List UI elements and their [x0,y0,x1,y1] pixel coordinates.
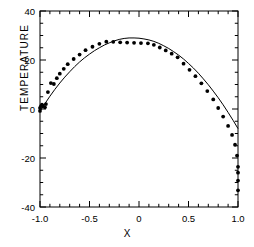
chart-figure: -1.0-0.500.51.0-40-2002040 TEMPERATURE X [0,0,254,247]
data-point [205,89,209,93]
data-point [91,45,95,49]
data-point [236,188,240,192]
data-point [139,41,143,45]
data-point [118,40,122,44]
data-point [152,43,156,47]
svg-text:0: 0 [30,104,35,115]
plot-frame [40,11,238,207]
y-axis-label: TEMPERATURE [19,8,30,128]
data-point [170,52,174,56]
data-point [132,41,136,45]
data-point [111,40,115,44]
data-point [233,143,237,147]
data-point [55,76,59,80]
data-point [221,115,225,119]
data-point [188,68,192,72]
data-point [84,48,88,52]
data-point [235,154,239,158]
x-axis-label: X [0,228,254,239]
data-point [236,171,240,175]
svg-text:-40: -40 [21,202,35,213]
chart-plot-area: -1.0-0.500.51.0-40-2002040 [0,0,254,247]
data-point [236,165,240,169]
data-point [216,106,220,110]
data-point [211,98,215,102]
data-point [194,74,198,78]
data-point [125,41,129,45]
data-point [226,124,230,128]
svg-text:1.0: 1.0 [231,213,244,224]
svg-text:0: 0 [136,213,141,224]
data-point [182,62,186,66]
svg-text:-20: -20 [21,153,35,164]
data-point [164,49,168,53]
data-point [58,72,62,76]
data-point [72,57,76,61]
data-point [44,102,48,106]
data-point [52,82,56,86]
data-point [104,40,108,44]
svg-text:-1.0: -1.0 [32,213,48,224]
data-point [66,62,70,66]
data-point [230,133,234,137]
axes-frame [40,11,238,207]
data-point [78,53,82,57]
data-point [158,46,162,50]
data-point [176,55,180,59]
data-point [146,41,150,45]
data-point [236,179,240,183]
svg-text:-0.5: -0.5 [81,213,97,224]
data-point [46,90,50,94]
data-point [62,67,66,71]
data-point [98,42,102,46]
data-point [199,81,203,85]
svg-text:0.5: 0.5 [182,213,195,224]
